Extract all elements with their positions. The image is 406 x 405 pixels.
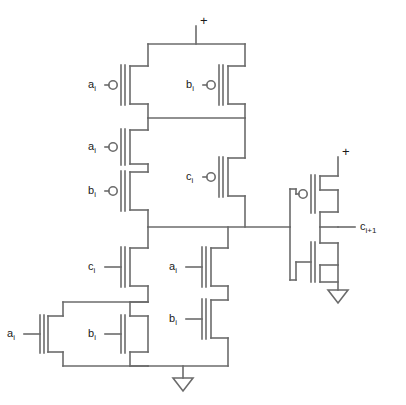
label-nmos-n3: bi [88,328,96,339]
circuit-schematic [0,0,406,405]
label-base: c [88,260,94,272]
pmos-p2-bI [203,44,245,118]
nmos-n4-aI [186,227,228,300]
vdd-rail-top [148,26,245,44]
label-sub: i [192,84,194,93]
label-nmos-n4: ai [169,261,177,272]
label-sub: i [175,318,177,327]
label-pmos-p3: ai [88,141,96,152]
vdd-label-right: + [342,145,350,158]
nmos-n3-bI [63,302,148,366]
label-sub: i [94,333,96,342]
schematic-canvas: + + ai bi ai bi ci ci ai bi ai bi ci+1 [0,0,406,405]
pmos-p6-inverter-pullup [296,175,338,227]
label-pmos-p2: bi [186,79,194,90]
pmos-p3-aI [105,118,148,172]
label-nmos-n5: bi [169,313,177,324]
label-pmos-p1: ai [88,79,96,90]
nmos-n5-bI [186,299,228,366]
nmos-n1-cI [105,227,148,302]
label-sub: i+1 [366,226,377,235]
pmos-p5-cI [203,118,245,227]
ground-inverter [328,265,348,303]
label-pmos-p5: ci [186,171,193,182]
inverter-gate-net [290,189,296,280]
ground-rail-main [148,366,228,391]
label-sub: i [175,266,177,275]
vdd-label-top: + [200,14,208,27]
pmos-p1-aI [105,44,148,118]
label-sub: i [94,190,96,199]
label-base: c [360,220,366,232]
nmos-n6-inverter-pulldown [296,227,338,282]
label-carry-out: ci+1 [360,221,376,232]
label-base: c [186,170,192,182]
label-nmos-n2: ai [7,328,15,339]
vdd-rail-right [320,157,338,176]
pmos-p4-bI [105,171,148,227]
label-sub: i [94,146,96,155]
label-sub: i [13,333,15,342]
label-pmos-p4: bi [88,185,96,196]
label-sub: i [94,84,96,93]
label-nmos-n1: ci [88,261,95,272]
